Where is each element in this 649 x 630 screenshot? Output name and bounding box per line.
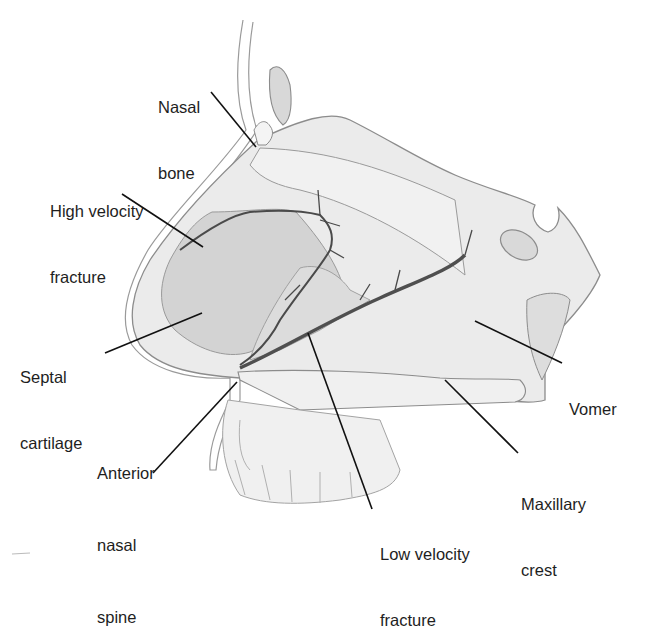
- label-septal-cartilage: Septal cartilage: [20, 322, 82, 498]
- label-line: Septal: [20, 366, 82, 388]
- label-line: Anterior: [97, 461, 155, 485]
- label-line: Maxillary: [521, 493, 586, 515]
- label-line: Low velocity: [380, 543, 470, 565]
- label-line: fracture: [380, 609, 470, 630]
- label-vomer: Vomer: [569, 354, 617, 464]
- label-line: crest: [521, 559, 586, 581]
- label-line: Vomer: [569, 398, 617, 420]
- label-line: nasal: [97, 533, 155, 557]
- label-line: spine: [97, 605, 155, 629]
- label-nasal-bone: Nasal bone: [158, 52, 200, 228]
- label-line: fracture: [50, 266, 144, 288]
- label-high-velocity-fracture: High velocity fracture: [50, 156, 144, 332]
- label-anterior-nasal-spine: Anterior nasal spine: [97, 413, 155, 630]
- label-line: cartilage: [20, 432, 82, 454]
- label-line: Nasal: [158, 96, 200, 118]
- label-maxillary-crest: Maxillary crest: [521, 449, 586, 625]
- label-low-velocity-fracture: Low velocity fracture: [380, 499, 470, 630]
- label-line: bone: [158, 162, 200, 184]
- label-line: High velocity: [50, 200, 144, 222]
